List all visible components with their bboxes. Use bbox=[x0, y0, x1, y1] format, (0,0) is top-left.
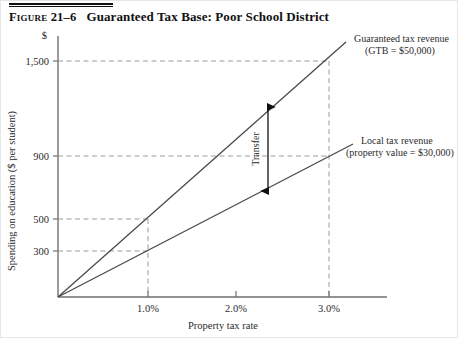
y-axis-unit-symbol: $ bbox=[42, 30, 47, 41]
transfer-annotation-label: Transfer bbox=[250, 132, 261, 166]
x-tick-label-1pct: 1.0% bbox=[137, 303, 159, 314]
series-label-guaranteed-line1: Guaranteed tax revenue bbox=[354, 33, 450, 44]
figure-container: Figure 21–6 Guaranteed Tax Base: Poor Sc… bbox=[0, 0, 458, 338]
y-tick-label-1500: 1,500 bbox=[25, 56, 49, 67]
y-tick-label-900: 900 bbox=[33, 151, 49, 162]
y-tick-label-300: 300 bbox=[33, 246, 49, 257]
y-axis-title: Spending on education ($ per student) bbox=[6, 110, 18, 271]
series-label-guaranteed-line2: (GTB = $50,000) bbox=[365, 45, 435, 57]
chart-svg: $ 1,500 900 500 300 1.0% 2.0% 3.0% Prope… bbox=[1, 1, 458, 338]
chart-plot-area: $ 1,500 900 500 300 1.0% 2.0% 3.0% Prope… bbox=[1, 1, 458, 338]
x-tick-label-3pct: 3.0% bbox=[318, 303, 340, 314]
series-label-local-line1: Local tax revenue bbox=[361, 135, 433, 146]
series-label-local-line2: (property value = $30,000) bbox=[346, 147, 454, 159]
x-tick-label-2pct: 2.0% bbox=[225, 303, 247, 314]
y-tick-label-500: 500 bbox=[33, 214, 49, 225]
x-axis-title: Property tax rate bbox=[188, 320, 258, 331]
